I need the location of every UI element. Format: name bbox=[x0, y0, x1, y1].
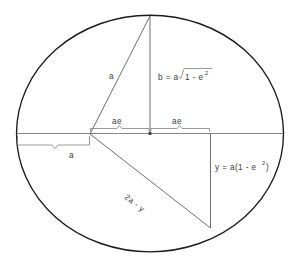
brace-ae-left bbox=[91, 126, 150, 132]
label-latus-rectum-tail: ) bbox=[266, 163, 269, 172]
diagram-root: a b = a 1 - e 2 ae ae a y = a(1 - e 2 ) … bbox=[0, 0, 296, 268]
label-latus-rectum-exponent: 2 bbox=[262, 160, 266, 166]
focal-chord-line bbox=[90, 134, 211, 228]
label-semi-major-slant: a bbox=[109, 72, 114, 81]
label-semi-minor-radicand: 1 - e bbox=[185, 73, 203, 82]
label-semi-minor-exponent: 2 bbox=[205, 70, 209, 76]
label-latus-rectum-group: y = a(1 - e 2 ) bbox=[215, 160, 269, 172]
label-semi-minor-group: b = a 1 - e 2 bbox=[158, 69, 212, 83]
label-latus-rectum-lhs: y = a(1 - e bbox=[215, 163, 257, 172]
center-point-marker bbox=[149, 132, 152, 135]
ellipse-geometry-figure: a b = a 1 - e 2 ae ae a y = a(1 - e 2 ) … bbox=[0, 0, 296, 268]
label-focal-left: ae bbox=[112, 117, 122, 126]
label-focal-right: ae bbox=[172, 117, 182, 126]
label-focal-chord: 2a - y bbox=[123, 192, 147, 213]
label-semi-minor-lhs: b = a bbox=[158, 73, 178, 82]
label-semi-major-horizontal: a bbox=[69, 151, 74, 160]
brace-a bbox=[18, 136, 90, 149]
brace-ae-right bbox=[151, 126, 210, 132]
